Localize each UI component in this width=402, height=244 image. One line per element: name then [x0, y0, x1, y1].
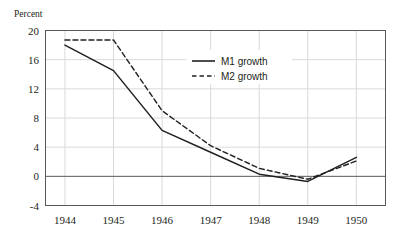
x-tick-label: 1949 [297, 214, 320, 226]
y-tick-label: 8 [34, 112, 40, 124]
x-tick-label: 1946 [151, 214, 174, 226]
x-tick-label: 1945 [103, 214, 126, 226]
y-tick-label: -4 [30, 200, 40, 212]
x-tick-label: 1947 [200, 214, 223, 226]
y-tick-label: 4 [34, 141, 40, 153]
y-tick-label: 16 [28, 54, 40, 66]
x-tick-label: 1950 [345, 214, 368, 226]
y-axis-label: Percent [14, 9, 43, 19]
chart-container: Percent 201612840-4 19441945194619471948… [0, 0, 402, 244]
x-tick-label: 1944 [54, 214, 77, 226]
y-tick-label: 12 [28, 83, 39, 95]
line-chart: Percent 201612840-4 19441945194619471948… [0, 0, 402, 244]
x-tick-label: 1948 [248, 214, 271, 226]
y-tick-label: 20 [28, 25, 40, 37]
legend-label-m2-growth: M2 growth [221, 71, 268, 82]
chart-background [0, 0, 402, 244]
legend-label-m1-growth: M1 growth [221, 56, 268, 67]
chart-legend: M1 growth M2 growth [186, 50, 292, 84]
y-tick-label: 0 [34, 170, 40, 182]
